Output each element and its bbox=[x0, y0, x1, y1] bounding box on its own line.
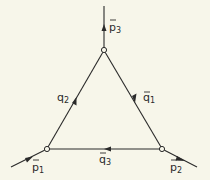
svg-text:p3: p3 bbox=[109, 21, 121, 35]
vertex-top bbox=[101, 47, 106, 52]
vertex-left bbox=[44, 146, 49, 151]
svg-text:p2: p2 bbox=[170, 161, 182, 175]
label-q3: q3 bbox=[99, 153, 111, 167]
label-p3: p3 bbox=[109, 20, 121, 35]
label-p2: p2 bbox=[170, 160, 182, 175]
vertex-right bbox=[159, 146, 164, 151]
arrow-q3-icon bbox=[104, 147, 111, 152]
svg-text:p1: p1 bbox=[32, 161, 44, 175]
label-q2: q2 bbox=[57, 91, 69, 105]
svg-text:q1: q1 bbox=[143, 91, 155, 105]
triangle-diagram: p3 p1 p2 q2 q1 q3 bbox=[0, 0, 210, 180]
svg-text:q2: q2 bbox=[57, 91, 69, 105]
arrow-up-icon bbox=[102, 24, 107, 31]
label-p1: p1 bbox=[32, 160, 44, 175]
svg-text:q3: q3 bbox=[99, 153, 111, 167]
label-q1: q1 bbox=[143, 91, 155, 105]
